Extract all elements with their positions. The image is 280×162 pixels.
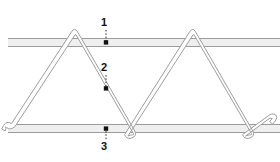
callout-label-3: 3 xyxy=(101,141,107,152)
lattice-girder-diagram: 1 2 3 xyxy=(0,0,280,162)
bottom-chord-bar-fill xyxy=(8,125,280,133)
callout-3-dot xyxy=(104,126,108,130)
callout-2-dot xyxy=(104,86,108,90)
callout-1-dot xyxy=(104,40,108,44)
bottom-chord-bar xyxy=(8,125,280,133)
callout-label-1: 1 xyxy=(101,17,107,28)
top-chord-bar xyxy=(8,39,280,47)
top-chord-bar-fill xyxy=(8,39,280,47)
diagram-canvas xyxy=(0,0,280,162)
callout-label-2: 2 xyxy=(101,62,107,73)
